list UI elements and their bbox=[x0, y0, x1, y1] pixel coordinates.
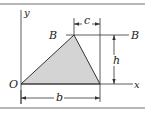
x-axis-label: x bbox=[134, 79, 140, 90]
c-label: c bbox=[84, 14, 90, 27]
b-label: b bbox=[56, 91, 63, 104]
b-right-label: B bbox=[130, 29, 139, 42]
b-arrow-right-icon bbox=[95, 96, 100, 99]
y-axis-label: y bbox=[23, 7, 30, 18]
h-label: h bbox=[113, 54, 120, 67]
b-arrow-left-icon bbox=[21, 96, 26, 99]
c-arrow-left-icon bbox=[74, 22, 79, 25]
diagram-frame: c h b y x O B B bbox=[0, 0, 145, 117]
h-arrow-bottom-icon bbox=[112, 79, 115, 84]
h-arrow-top-icon bbox=[112, 35, 115, 40]
shaded-triangle bbox=[21, 35, 100, 84]
origin-label: O bbox=[9, 78, 18, 91]
b-left-label: B bbox=[48, 29, 57, 42]
c-arrow-right-icon bbox=[95, 22, 100, 25]
